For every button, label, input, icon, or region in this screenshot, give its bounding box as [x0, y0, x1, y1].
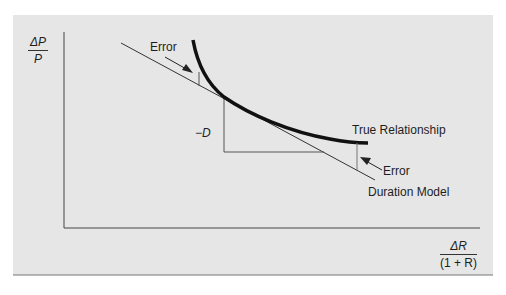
error-label-top: Error	[150, 41, 177, 53]
x-axis-label-numerator: ΔR	[440, 240, 477, 255]
x-axis-label: ΔR (1 + R)	[440, 240, 477, 269]
x-axis-label-denominator: (1 + R)	[440, 255, 477, 269]
duration-diagram	[0, 0, 506, 295]
y-axis-label-denominator: P	[28, 51, 48, 65]
true-relationship-label: True Relationship	[352, 124, 446, 136]
figure-panel	[13, 15, 493, 275]
error-label-bottom: Error	[383, 165, 410, 177]
y-axis-label: ΔP P	[28, 36, 48, 65]
duration-model-label: Duration Model	[368, 186, 449, 198]
slope-label: −D	[195, 127, 211, 139]
y-axis-label-numerator: ΔP	[28, 36, 48, 51]
